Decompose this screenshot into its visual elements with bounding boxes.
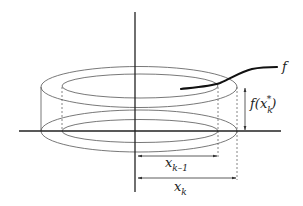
top-outer-ellipse — [41, 67, 237, 108]
outer-radius-label: xk — [174, 179, 187, 197]
top-inner-ellipse — [62, 74, 218, 98]
inner-radius-label: xk–1 — [165, 155, 188, 173]
height-label: f(xk*) — [249, 94, 276, 115]
cylindrical-shell-diagram: f f(xk*) xk–1 xk — [0, 0, 303, 206]
function-label: f — [281, 59, 289, 74]
top-shell-surface — [41, 67, 237, 108]
